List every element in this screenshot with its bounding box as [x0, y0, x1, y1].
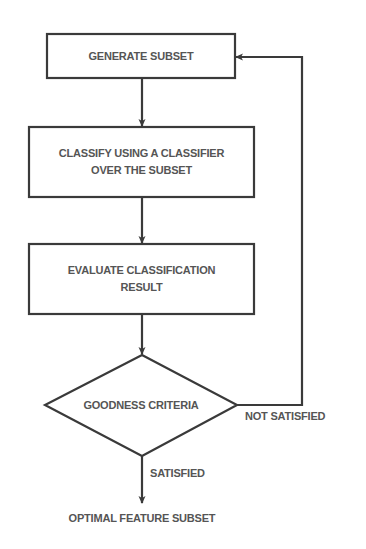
classify-label: CLASSIFY USING A CLASSIFIER OVER THE SUB… [29, 127, 254, 197]
evaluate-text-line2: RESULT [121, 279, 163, 296]
satisfied-label: SATISFIED [150, 467, 205, 479]
generate-subset-text: GENERATE SUBSET [89, 48, 194, 65]
optimal-feature-subset-text: OPTIMAL FEATURE SUBSET [69, 510, 216, 527]
optimal-feature-subset-label: OPTIMAL FEATURE SUBSET [22, 509, 262, 527]
arrow-not-satisfied-loop [236, 57, 302, 405]
classify-text-line2: OVER THE SUBSET [91, 162, 192, 179]
goodness-criteria-label: GOODNESS CRITERIA [45, 395, 237, 415]
evaluate-label: EVALUATE CLASSIFICATION RESULT [29, 244, 254, 314]
evaluate-text-line1: EVALUATE CLASSIFICATION [68, 262, 216, 279]
generate-subset-label: GENERATE SUBSET [47, 34, 235, 78]
not-satisfied-label: NOT SATISFIED [245, 410, 325, 422]
goodness-criteria-text: GOODNESS CRITERIA [83, 397, 198, 414]
flowchart-canvas: GENERATE SUBSET CLASSIFY USING A CLASSIF… [0, 0, 366, 549]
classify-text-line1: CLASSIFY USING A CLASSIFIER [59, 145, 224, 162]
